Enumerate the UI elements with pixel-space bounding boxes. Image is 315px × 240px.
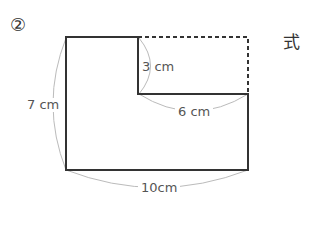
width-label: 10cm [138,181,180,195]
notch-width-label: 6 cm [175,105,213,119]
height-label: 7 cm [27,98,59,112]
notch-height-label: 3 cm [142,60,174,74]
